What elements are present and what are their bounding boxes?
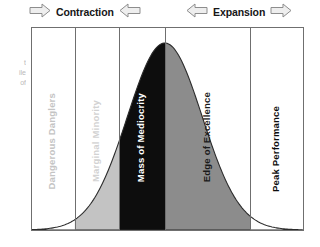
contraction-label: Contraction [53,6,117,18]
header-band: Contraction Expansion [0,0,320,24]
band-divider [165,28,166,230]
band-label-marginal-minority: Marginal Minority [91,100,101,182]
bell-curve-chart: Dangerous DanglersMarginal MinorityMass … [31,27,304,231]
band-divider [119,28,120,230]
band-fill-group [32,28,303,230]
contraction-annotation-group: Contraction [29,2,141,22]
left-caption-line-3: of [0,78,26,88]
left-cutoff-caption: t ile of [0,58,26,88]
arrow-right-outline-icon [29,3,51,22]
arrow-right-outline-icon [270,3,292,22]
left-caption-line-2: ile [0,68,26,78]
arrow-left-outline-icon [119,3,141,22]
expansion-annotation-group: Expansion [186,2,292,22]
band-divider [250,28,251,230]
expansion-label: Expansion [210,6,268,18]
band-label-edge-of-excellence: Edge of Excellence [202,92,212,182]
chart-plot-area: Dangerous DanglersMarginal MinorityMass … [32,28,303,230]
band-label-mass-of-mediocrity: Mass of Mediocrity [136,93,146,182]
band-divider [75,28,76,230]
band-label-dangerous-danglers: Dangerous Danglers [47,93,57,190]
bell-curve-graphic [32,28,303,230]
band-label-peak-performance: Peak Performance [271,106,281,192]
left-caption-line-1: t [0,58,26,68]
arrow-left-outline-icon [186,3,208,22]
